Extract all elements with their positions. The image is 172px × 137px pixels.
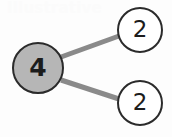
edge-root-to-part-bottom <box>61 80 119 99</box>
diagram-canvas: Illustrative 4 2 2 <box>0 0 172 137</box>
node-root-whole[interactable]: 4 <box>12 42 64 94</box>
node-part-top-label: 2 <box>133 18 148 41</box>
node-part-bottom[interactable]: 2 <box>117 80 163 126</box>
node-part-top[interactable]: 2 <box>117 7 163 53</box>
node-part-bottom-label: 2 <box>133 91 148 114</box>
node-root-label: 4 <box>29 55 46 80</box>
edge-root-to-part-top <box>61 36 119 57</box>
